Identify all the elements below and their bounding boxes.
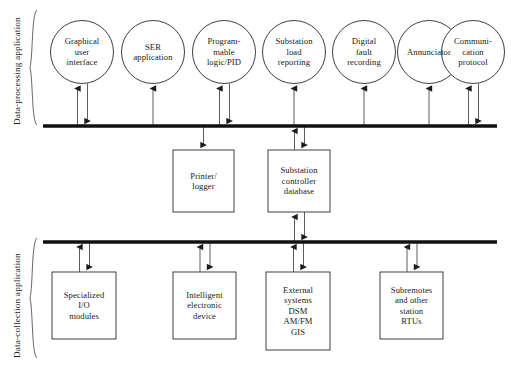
substation-load-reporting-node[interactable] (263, 21, 326, 84)
data-processing-brace (30, 10, 37, 125)
graphical-user-interface-node[interactable] (51, 21, 114, 84)
data-processing-application-side-label: Data-processing application (12, 17, 22, 125)
intelligent-electronic-device-node[interactable] (173, 272, 236, 339)
communication-protocol-node[interactable] (442, 21, 505, 84)
digital-fault-recording-node[interactable] (333, 21, 396, 84)
data-collection-brace (30, 238, 37, 358)
specialized-io-modules-node[interactable] (52, 272, 116, 339)
ser-application-node[interactable] (122, 21, 185, 84)
programmable-logic-pid-node[interactable] (193, 21, 256, 84)
subremotes-station-rtus-node[interactable] (380, 272, 443, 339)
external-systems-node[interactable] (266, 272, 330, 350)
printer-logger-node[interactable] (173, 150, 234, 212)
substation-controller-database-node[interactable] (268, 150, 330, 212)
substation-architecture-diagram: GraphicaluserinterfaceSERapplicationProg… (0, 0, 511, 365)
data-collection-application-side-label: Data-collection application (12, 253, 22, 358)
diagram-canvas (0, 0, 511, 365)
